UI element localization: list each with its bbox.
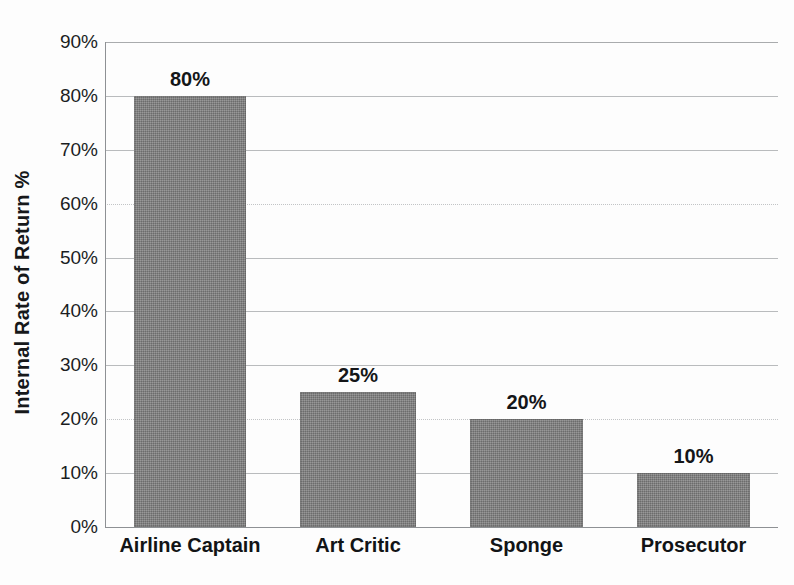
bar-chart: Internal Rate of Return % 0%10%20%30%40%… (0, 0, 794, 585)
gridline-0 (105, 527, 778, 528)
bar-value-label: 10% (637, 445, 750, 468)
y-tick-label-90: 90% (38, 31, 98, 53)
category-label: Airline Captain (94, 534, 286, 557)
bar[interactable] (134, 96, 246, 527)
y-axis-tick-labels: 0%10%20%30%40%50%60%70%80%90% (38, 0, 98, 585)
y-tick-label-20: 20% (38, 408, 98, 430)
bar[interactable] (637, 473, 750, 527)
bar-value-label: 80% (134, 68, 246, 91)
y-tick-label-30: 30% (38, 354, 98, 376)
bar[interactable] (470, 419, 583, 527)
bar[interactable] (300, 392, 416, 527)
bar-value-label: 25% (300, 364, 416, 387)
bars-layer: 80%25%20%10% (105, 42, 778, 527)
category-label: Sponge (430, 534, 623, 557)
category-label: Art Critic (260, 534, 456, 557)
plot-area: 80%25%20%10% (105, 42, 778, 527)
y-tick-label-0: 0% (38, 516, 98, 538)
y-tick-label-60: 60% (38, 193, 98, 215)
bar-value-label: 20% (470, 391, 583, 414)
y-tick-label-40: 40% (38, 300, 98, 322)
y-tick-label-70: 70% (38, 139, 98, 161)
category-label: Prosecutor (597, 534, 790, 557)
y-tick-label-10: 10% (38, 462, 98, 484)
x-axis-category-labels: Airline CaptainArt CriticSpongeProsecuto… (105, 534, 778, 568)
y-tick-label-50: 50% (38, 247, 98, 269)
y-tick-label-80: 80% (38, 85, 98, 107)
